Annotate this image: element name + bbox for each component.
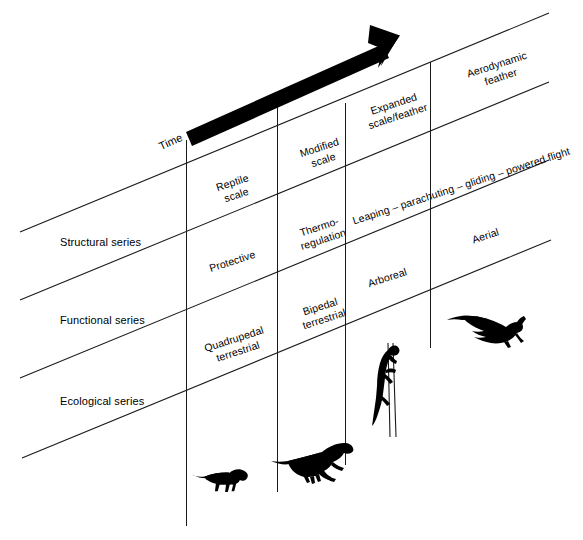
row-label-ecological: Ecological series [60,395,144,408]
row-label-functional: Functional series [60,314,145,327]
flying-bird-silhouette [447,316,526,348]
diagonal-rail-1 [20,13,549,232]
diagonal-rail-2 [20,82,549,300]
row-label-structural: Structural series [60,236,141,249]
climbing-arboreal-dinosaur-silhouette [372,343,400,437]
bipedal-dinosaur-silhouette [271,443,353,484]
diagonal-rail-4 [22,240,551,458]
quadrupedal-dinosaur-silhouette [192,469,248,492]
diagonal-rail-3 [20,160,549,378]
evolution-series-diagram: Time Structural series Functional series… [0,0,583,540]
